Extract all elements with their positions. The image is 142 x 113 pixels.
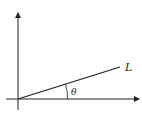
angle-diagram: L θ <box>0 0 142 113</box>
line-label: L <box>124 61 132 74</box>
line-l <box>18 67 120 99</box>
angle-arc <box>66 84 68 99</box>
angle-label: θ <box>71 87 77 97</box>
